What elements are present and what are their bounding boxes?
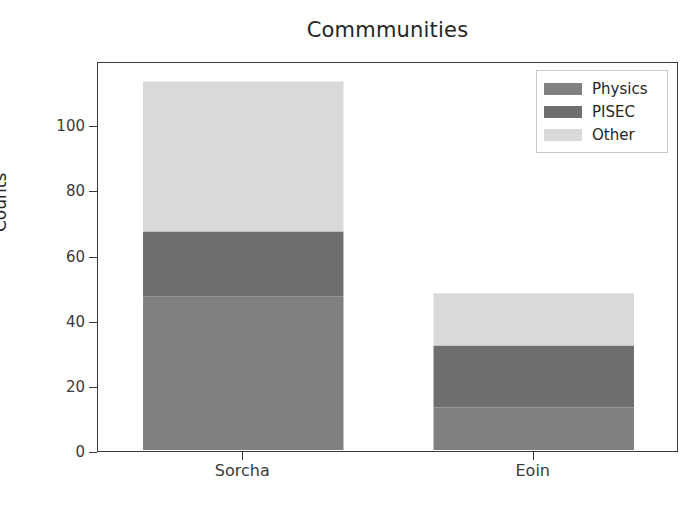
legend-label: Physics (592, 80, 647, 98)
y-tick-mark (89, 126, 97, 127)
y-tick-label: 0 (75, 443, 85, 461)
y-axis-label: Counts (0, 173, 10, 232)
y-tick-mark (89, 191, 97, 192)
legend-label: PISEC (592, 103, 635, 121)
y-tick-mark (89, 452, 97, 453)
y-tick-label: 40 (66, 313, 85, 331)
bar-segment (434, 407, 634, 450)
x-tick-mark (242, 452, 243, 460)
legend-label: Other (592, 126, 635, 144)
y-tick-mark (89, 387, 97, 388)
y-tick-label: 60 (66, 248, 85, 266)
bar-segment (434, 293, 634, 345)
bar-segment (434, 345, 634, 407)
x-tick-mark (533, 452, 534, 460)
x-tick-label: Sorcha (215, 461, 270, 480)
chart-legend: PhysicsPISECOther (536, 70, 668, 153)
legend-swatch-icon (544, 83, 582, 95)
x-tick-label: Eoin (516, 461, 550, 480)
bar-segment (143, 82, 343, 232)
legend-item: Other (544, 123, 660, 146)
bar-segment (143, 297, 343, 450)
chart-title: Commmunities (97, 18, 678, 42)
legend-item: PISEC (544, 100, 660, 123)
y-tick-mark (89, 322, 97, 323)
legend-swatch-icon (544, 106, 582, 118)
y-tick-mark (89, 257, 97, 258)
bar-segment (143, 231, 343, 296)
legend-swatch-icon (544, 129, 582, 141)
y-tick-label: 20 (66, 378, 85, 396)
chart-figure: Commmunities Counts 100806040200 SorchaE… (0, 0, 700, 507)
y-tick-label: 80 (66, 182, 85, 200)
legend-item: Physics (544, 77, 660, 100)
y-tick-label: 100 (56, 117, 85, 135)
